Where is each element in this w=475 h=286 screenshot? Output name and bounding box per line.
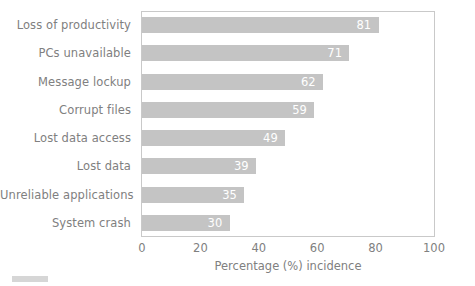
x-tick-label: 20 [193,241,208,255]
bar-value-label: 49 [263,131,278,145]
bar-track: 62 [142,74,434,90]
bar-row: Lost data39 [0,152,475,180]
bar-track: 30 [142,215,434,231]
category-label: Corrupt files [0,103,131,117]
bar-value-label: 30 [208,216,223,230]
bar-row: Corrupt files59 [0,96,475,124]
bar-track: 39 [142,158,434,174]
footer-mark [12,276,48,282]
bar [142,102,314,118]
bar [142,74,323,90]
x-tick-label: 60 [310,241,325,255]
bar [142,17,379,33]
category-label: Unreliable applications [0,188,131,202]
x-tick-label: 80 [368,241,383,255]
bar-row: Loss of productivity81 [0,11,475,39]
category-label: Message lockup [0,75,131,89]
category-label: Lost data [0,159,131,173]
bar-row: System crash30 [0,209,475,237]
bar-track: 35 [142,187,434,203]
bar-track: 71 [142,45,434,61]
bar-row: Message lockup62 [0,68,475,96]
bar-track: 59 [142,102,434,118]
bar-value-label: 71 [327,46,342,60]
x-tick-label: 100 [423,241,445,255]
bar [142,45,349,61]
bar-value-label: 81 [357,18,372,32]
bar-row: PCs unavailable71 [0,39,475,67]
bar-value-label: 59 [292,103,307,117]
bar-track: 81 [142,17,434,33]
category-label: PCs unavailable [0,46,131,60]
bar-value-label: 35 [222,188,237,202]
x-axis-title: Percentage (%) incidence [141,259,435,273]
category-label: Loss of productivity [0,18,131,32]
bar-row: Lost data access49 [0,124,475,152]
x-tick-label: 0 [138,241,145,255]
bar-value-label: 39 [234,159,249,173]
bar-value-label: 62 [301,75,316,89]
category-label: System crash [0,216,131,230]
category-label: Lost data access [0,131,131,145]
bar-row: Unreliable applications35 [0,181,475,209]
bar-track: 49 [142,130,434,146]
x-tick-label: 40 [251,241,266,255]
bar-chart: Loss of productivity81PCs unavailable71M… [0,0,475,286]
x-axis-ticks: 020406080100 [142,237,434,261]
